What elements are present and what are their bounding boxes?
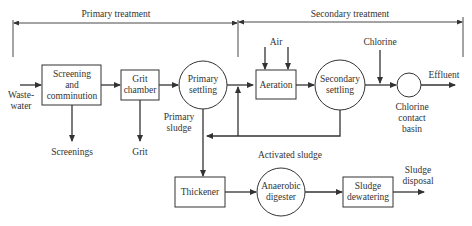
sludge-dewatering-node: Sludge dewatering — [343, 177, 393, 207]
wastewater-treatment-diagram: Primary treatment Secondary treatment Wa… — [0, 0, 472, 226]
thickener-node: Thickener — [175, 177, 225, 207]
sludge-disposal-line1: Sludge — [405, 165, 431, 175]
grit-chamber-line1: Grit — [132, 74, 148, 84]
secondary-treatment-label: Secondary treatment — [311, 9, 390, 19]
dewatering-line2: dewatering — [347, 192, 389, 202]
screenings-label: Screenings — [51, 147, 93, 157]
primary-sludge-line1: Primary — [164, 112, 195, 122]
grit-label: Grit — [132, 147, 148, 157]
primary-treatment-bracket: Primary treatment — [13, 9, 238, 57]
thickener-label: Thickener — [181, 187, 220, 197]
chlorine-contact-basin-node: Chlorine contact basin — [395, 73, 428, 134]
digester-line2: digester — [266, 192, 297, 202]
wastewater-label-line1: Waste- — [8, 90, 34, 100]
screening-line1: Screening — [53, 69, 91, 79]
chlorine-basin-line3: basin — [402, 124, 422, 134]
chlorine-label: Chlorine — [363, 37, 396, 47]
primary-settling-line1: Primary — [188, 74, 219, 84]
dewatering-line1: Sludge — [355, 181, 381, 191]
secondary-settling-node: Secondary settling — [315, 60, 365, 110]
air-label: Air — [270, 37, 284, 47]
screening-line3: comminution — [47, 91, 98, 101]
effluent-label: Effluent — [429, 70, 460, 80]
grit-chamber-node: Grit chamber — [121, 70, 159, 100]
aeration-node: Aeration — [256, 70, 296, 99]
screening-line2: and — [65, 80, 79, 90]
wastewater-label-line2: water — [10, 101, 32, 111]
anaerobic-digester-node: Anaerobic digester — [257, 168, 305, 216]
sludge-disposal-line2: disposal — [402, 176, 434, 186]
primary-settling-line2: settling — [189, 85, 217, 95]
grit-chamber-line2: chamber — [124, 85, 158, 95]
secondary-settling-line2: settling — [326, 85, 354, 95]
activated-sludge-label: Activated sludge — [258, 150, 322, 160]
digester-line1: Anaerobic — [261, 181, 301, 191]
secondary-treatment-bracket: Secondary treatment — [239, 9, 463, 57]
chlorine-basin-line2: contact — [398, 113, 426, 123]
secondary-settling-line1: Secondary — [320, 74, 360, 84]
primary-sludge-line2: sludge — [167, 123, 192, 133]
aeration-label: Aeration — [259, 80, 292, 90]
screening-and-comminution-node: Screening and comminution — [42, 65, 101, 105]
primary-treatment-label: Primary treatment — [82, 9, 151, 19]
chlorine-basin-line1: Chlorine — [395, 102, 428, 112]
primary-settling-node: Primary settling — [179, 61, 227, 109]
